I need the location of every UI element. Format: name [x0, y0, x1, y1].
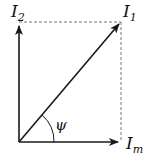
angle-arc-psi — [42, 115, 54, 142]
label-i2: I2 — [10, 1, 25, 24]
vector-i1 — [19, 24, 119, 142]
label-psi: ψ — [55, 116, 67, 134]
label-i1: I1 — [122, 1, 137, 24]
phasor-diagram: I2 I1 Im ψ — [0, 0, 165, 163]
label-im: Im — [125, 133, 143, 156]
